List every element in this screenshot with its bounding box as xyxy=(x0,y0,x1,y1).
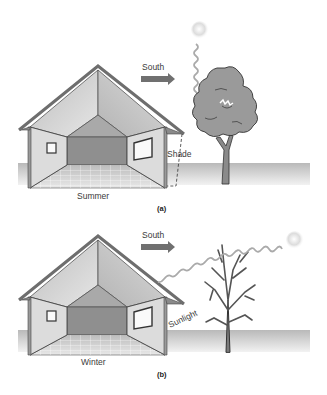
caption-b: (b) xyxy=(157,370,167,379)
panel-a-summer: South Shade Summer (a) xyxy=(18,21,310,213)
caption-a: (a) xyxy=(157,204,167,213)
back-wall xyxy=(67,137,127,165)
direction-label-b: South xyxy=(142,230,164,240)
season-label-b: Winter xyxy=(81,357,106,367)
left-window xyxy=(47,311,56,321)
diagram-canvas: South Shade Summer (a) xyxy=(0,0,327,395)
house-winter xyxy=(19,236,184,355)
sun-icon-a xyxy=(191,21,209,39)
right-wall-edge xyxy=(164,297,167,355)
light-label-b: Sunlight xyxy=(167,307,200,329)
sun-icon-b xyxy=(286,231,304,249)
season-label-a: Summer xyxy=(77,191,109,201)
panel-b-winter: South Sunlight Winter (b) xyxy=(18,230,310,379)
light-label-a: Shade xyxy=(167,149,192,159)
left-wall-edge xyxy=(28,127,31,188)
back-wall xyxy=(67,307,127,335)
tree-canopy xyxy=(192,67,257,137)
south-arrow-b xyxy=(141,241,175,253)
house-summer xyxy=(19,66,184,188)
direction-label-a: South xyxy=(142,62,164,72)
tree-branches xyxy=(205,245,255,325)
left-wall-edge xyxy=(28,297,31,355)
left-window xyxy=(47,143,56,153)
south-arrow-a xyxy=(141,73,175,85)
